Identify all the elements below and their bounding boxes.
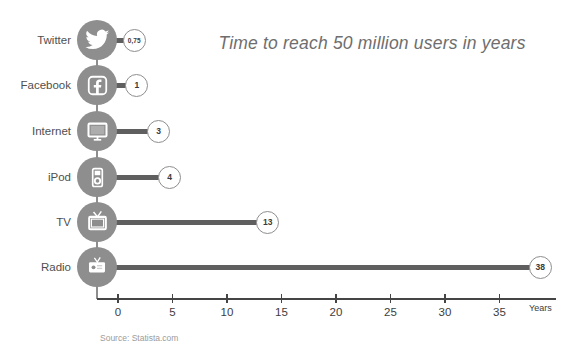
value-badge-facebook: 1 [125, 74, 148, 97]
category-label-tv: TV [0, 216, 71, 228]
internet-icon [84, 118, 111, 145]
axis-tick [117, 294, 119, 303]
tv-icon [84, 209, 111, 236]
axis-tick-label: 35 [493, 306, 506, 318]
axis-tick-label: 15 [275, 306, 288, 318]
value-badge-twitter: 0,75 [123, 29, 146, 52]
facebook-circle [77, 65, 117, 105]
tv-circle [77, 202, 117, 242]
axis-tick-label: 25 [384, 306, 397, 318]
axis-tick-label: 10 [221, 306, 234, 318]
category-label-ipod: iPod [0, 171, 71, 183]
twitter-icon [84, 27, 110, 53]
axis-tick [499, 294, 501, 303]
category-label-radio: Radio [0, 261, 71, 273]
axis-tick [335, 294, 337, 303]
bar-tv [97, 220, 268, 225]
ipod-circle [77, 157, 117, 197]
x-axis-unit-label: Years [529, 303, 552, 313]
radio-circle [77, 247, 117, 287]
category-label-twitter: Twitter [0, 34, 71, 46]
source-credit: Source: Statista.com [100, 333, 178, 343]
value-badge-internet: 3 [147, 120, 170, 143]
chart-title: Time to reach 50 million users in years [198, 33, 546, 54]
category-label-facebook: Facebook [0, 79, 71, 91]
axis-tick-label: 0 [115, 306, 121, 318]
value-badge-ipod: 4 [158, 166, 181, 189]
bar-radio [97, 265, 540, 270]
axis-tick [226, 294, 228, 303]
ipod-icon [85, 165, 110, 190]
axis-tick [390, 294, 392, 303]
axis-tick-label: 30 [439, 306, 452, 318]
category-label-internet: Internet [0, 125, 71, 137]
value-badge-tv: 13 [256, 211, 279, 234]
axis-tick [444, 294, 446, 303]
chart-canvas: Time to reach 50 million users in years … [0, 0, 581, 363]
axis-tick-label: 5 [169, 306, 175, 318]
x-axis-line [97, 298, 556, 300]
facebook-icon [85, 73, 110, 98]
value-badge-radio: 38 [529, 256, 552, 279]
radio-icon [84, 254, 110, 280]
axis-tick [281, 294, 283, 303]
axis-tick-label: 20 [330, 306, 343, 318]
axis-tick [172, 294, 174, 303]
internet-circle [77, 111, 117, 151]
twitter-circle [77, 20, 117, 60]
